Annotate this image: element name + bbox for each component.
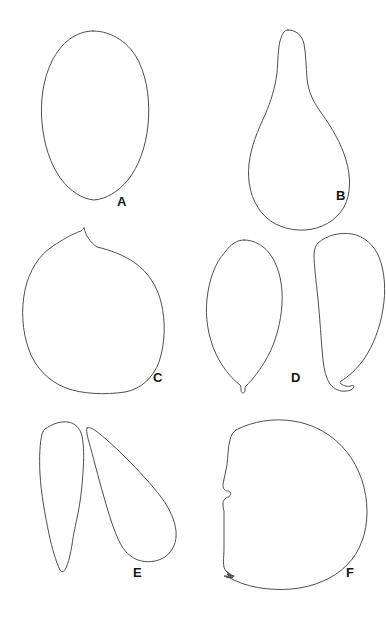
panel-label-c: C — [153, 370, 163, 385]
panel-label-a: A — [117, 194, 127, 209]
panel-label-d: D — [291, 370, 300, 385]
specimen-outline-d-left — [206, 240, 282, 393]
specimen-outline-c — [23, 228, 165, 394]
specimen-outline-a — [41, 31, 148, 200]
specimen-outline-b — [249, 30, 350, 230]
panel-e: E — [40, 422, 177, 580]
panel-a: A — [41, 31, 148, 209]
specimen-outline-e-right — [87, 428, 177, 562]
plate-canvas: A B C D E F — [0, 0, 386, 626]
panel-label-e: E — [133, 565, 142, 580]
panel-f: F — [223, 420, 367, 590]
panel-label-f: F — [346, 565, 354, 580]
specimen-outline-d-right — [314, 233, 385, 391]
figure-plate: A B C D E F — [0, 0, 386, 626]
panel-d: D — [206, 233, 384, 393]
specimen-outline-e-left — [40, 422, 84, 572]
panel-c: C — [23, 228, 165, 394]
panel-b: B — [249, 30, 350, 230]
panel-label-b: B — [336, 188, 345, 203]
